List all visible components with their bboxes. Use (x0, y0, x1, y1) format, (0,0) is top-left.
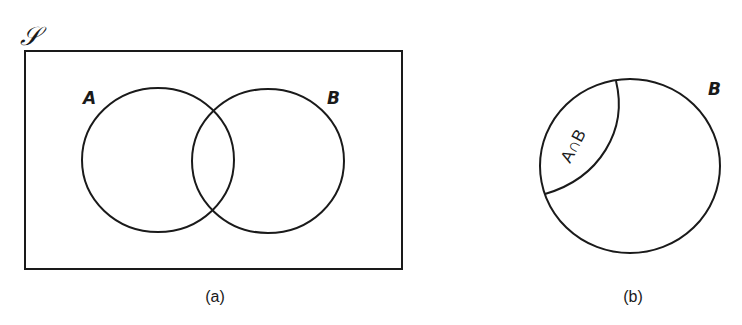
set-b-label: B (708, 79, 721, 99)
caption-a: (a) (205, 288, 225, 305)
caption-b: (b) (623, 288, 643, 305)
intersection-label: A∩B (557, 126, 590, 166)
set-b-circle (540, 79, 720, 253)
venn-diagram-figure: 𝒮 A B (a) A∩B B (b) (0, 0, 742, 325)
set-b-circle (192, 89, 344, 233)
set-a-circle (82, 88, 234, 232)
figure-a: 𝒮 A B (a) (20, 21, 402, 305)
universe-label: 𝒮 (20, 21, 47, 51)
set-b-label: B (327, 88, 340, 108)
set-a-label: A (81, 88, 96, 108)
figure-b: A∩B B (b) (540, 79, 721, 305)
